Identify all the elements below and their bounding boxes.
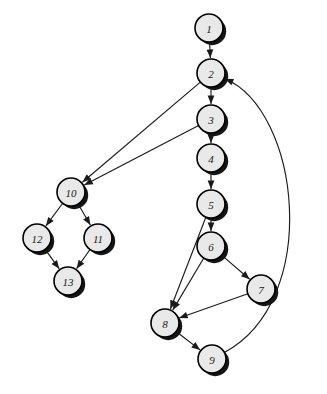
edge-path xyxy=(179,294,248,318)
node-circle[interactable] xyxy=(198,345,226,373)
node-circle[interactable] xyxy=(247,275,275,303)
node-circle[interactable] xyxy=(84,224,112,252)
arrowhead-8-9 xyxy=(191,342,200,350)
node-circle[interactable] xyxy=(197,190,225,218)
arrowhead-5-6 xyxy=(208,223,215,232)
graph-node-6[interactable]: 6 xyxy=(197,232,228,263)
edge-path xyxy=(82,82,200,182)
arrowhead-2-3 xyxy=(208,96,215,105)
graph-node-2[interactable]: 2 xyxy=(197,59,228,90)
arrowhead-10-11 xyxy=(83,216,90,225)
edge-10-to-12 xyxy=(46,203,63,226)
node-circle[interactable] xyxy=(57,178,85,206)
edge-3-to-10 xyxy=(84,125,198,185)
edge-11-to-13 xyxy=(77,249,90,268)
arrowhead-4-5 xyxy=(208,181,215,190)
graph-node-5[interactable]: 5 xyxy=(197,190,228,221)
node-circle[interactable] xyxy=(197,105,225,133)
edge-9-to-2 xyxy=(224,79,289,353)
arrowhead-1-2 xyxy=(207,49,214,58)
node-circle[interactable] xyxy=(54,267,82,295)
node-circle[interactable] xyxy=(23,224,51,252)
arrowhead-11-13 xyxy=(77,260,85,269)
edge-6-to-8 xyxy=(173,258,204,310)
edge-path xyxy=(224,79,289,353)
edge-8-to-9 xyxy=(176,332,200,350)
graph-node-8[interactable]: 8 xyxy=(151,309,182,340)
graph-node-9[interactable]: 9 xyxy=(198,345,229,376)
graph-node-3[interactable]: 3 xyxy=(197,105,228,136)
edge-path xyxy=(173,258,204,310)
node-circle[interactable] xyxy=(197,59,225,87)
node-circle[interactable] xyxy=(197,144,225,172)
node-circle[interactable] xyxy=(151,309,179,337)
graph-node-12[interactable]: 12 xyxy=(23,224,54,255)
arrowhead-10-12 xyxy=(46,217,54,226)
graph-canvas: 12345678910111213 xyxy=(0,0,327,394)
edge-path xyxy=(84,125,198,185)
edge-2-to-10 xyxy=(82,82,200,182)
arrowhead-7-8 xyxy=(179,312,188,318)
node-circle[interactable] xyxy=(197,232,225,260)
nodes-layer: 12345678910111213 xyxy=(23,14,278,376)
edge-7-to-8 xyxy=(179,294,248,319)
directed-graph-diagram: 12345678910111213 xyxy=(0,0,327,394)
graph-node-4[interactable]: 4 xyxy=(197,144,228,175)
graph-node-1[interactable]: 1 xyxy=(195,14,226,45)
graph-node-13[interactable]: 13 xyxy=(54,267,85,298)
node-circle[interactable] xyxy=(195,14,223,42)
edge-6-to-7 xyxy=(222,255,250,279)
graph-node-7[interactable]: 7 xyxy=(247,275,278,306)
arrowhead-12-13 xyxy=(51,260,59,269)
